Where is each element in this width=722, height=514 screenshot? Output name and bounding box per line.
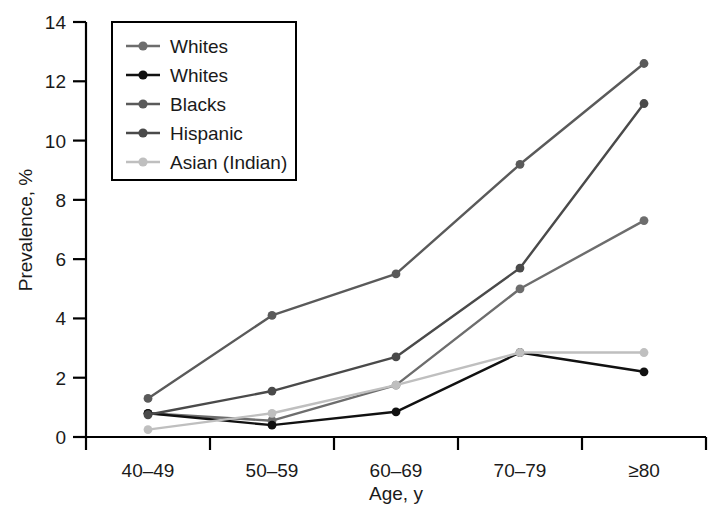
data-point (392, 407, 401, 416)
data-point (640, 367, 649, 376)
data-point (144, 425, 153, 434)
legend-item-label: Hispanic (170, 123, 243, 144)
y-axis: 02468101214 Prevalence, % (15, 12, 86, 448)
data-point (640, 59, 649, 68)
data-point (268, 409, 277, 418)
data-point (516, 284, 525, 293)
x-tick-label: 50–59 (246, 460, 299, 481)
y-axis-tick-labels: 02468101214 (45, 12, 67, 448)
data-point (144, 410, 153, 419)
data-point (516, 348, 525, 357)
data-point (640, 99, 649, 108)
legend-item-label: Asian (Indian) (170, 152, 287, 173)
y-tick-label: 10 (45, 131, 66, 152)
legend-swatch-marker (138, 99, 147, 108)
y-axis-title: Prevalence, % (15, 169, 36, 292)
data-point (392, 381, 401, 390)
legend-swatch-marker (138, 41, 147, 50)
legend-swatch-marker (138, 128, 147, 137)
y-axis-ticks (73, 22, 86, 437)
legend-swatch-marker (138, 157, 147, 166)
y-tick-label: 8 (55, 190, 66, 211)
x-axis-tick-labels: 40–4950–5960–6970–79≥80 (122, 460, 660, 481)
y-tick-label: 6 (55, 249, 66, 270)
y-tick-label: 0 (55, 427, 66, 448)
x-tick-label: 70–79 (494, 460, 547, 481)
x-axis-title: Age, y (369, 483, 423, 504)
y-tick-label: 12 (45, 71, 66, 92)
y-tick-label: 2 (55, 368, 66, 389)
legend-item-label: Whites (170, 36, 228, 57)
data-point (268, 421, 277, 430)
data-point (268, 311, 277, 320)
x-axis-ticks (86, 437, 706, 450)
data-point (268, 387, 277, 396)
legend-item-label: Blacks (170, 94, 226, 115)
legend-item-label: Whites (170, 65, 228, 86)
figure-container: 02468101214 Prevalence, % 40–4950–5960–6… (0, 0, 722, 514)
data-point (640, 348, 649, 357)
data-point (516, 264, 525, 273)
x-tick-label: 60–69 (370, 460, 423, 481)
data-point (640, 216, 649, 225)
data-point (392, 353, 401, 362)
y-tick-label: 4 (55, 308, 66, 329)
series-line (148, 221, 644, 421)
x-tick-label: 40–49 (122, 460, 175, 481)
series-0 (144, 216, 649, 425)
x-axis: 40–4950–5960–6970–79≥80 Age, y (86, 437, 706, 504)
legend-swatch-marker (138, 70, 147, 79)
data-point (516, 160, 525, 169)
x-tick-label: ≥80 (628, 460, 660, 481)
chart-legend: WhitesWhitesBlacksHispanicAsian (Indian) (112, 22, 296, 180)
data-point (392, 270, 401, 279)
y-tick-label: 14 (45, 12, 67, 33)
prevalence-by-age-line-chart: 02468101214 Prevalence, % 40–4950–5960–6… (0, 0, 722, 514)
data-point (144, 394, 153, 403)
